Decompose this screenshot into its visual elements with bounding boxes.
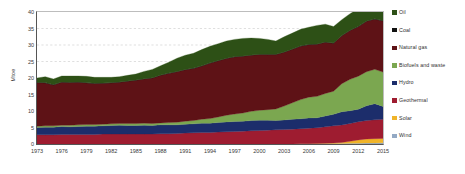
x-tick-label: 2012 — [352, 148, 364, 154]
y-tick-label: 35 — [18, 26, 34, 32]
y-tick-label: 15 — [18, 92, 34, 98]
y-tick-label: 5 — [18, 125, 34, 131]
legend-swatch-icon — [392, 98, 397, 103]
plot-area — [36, 11, 384, 145]
legend-item-hydro[interactable]: Hydro — [392, 80, 414, 85]
legend-label: Biofuels and waste — [399, 63, 445, 68]
legend-item-biofuels-and-waste[interactable]: Biofuels and waste — [392, 63, 445, 68]
x-tick-label: 1988 — [154, 148, 166, 154]
legend-swatch-icon — [392, 63, 397, 68]
x-axis-tick-labels: 1973197619791982198519881991199419972000… — [36, 148, 384, 162]
legend-swatch-icon — [392, 10, 397, 15]
y-tick-label: 20 — [18, 75, 34, 81]
legend-swatch-icon — [392, 134, 397, 139]
x-tick-label: 2000 — [253, 148, 265, 154]
legend-item-wind[interactable]: Wind — [392, 133, 411, 138]
x-tick-label: 2015 — [377, 148, 389, 154]
legend-label: Wind — [399, 133, 411, 138]
legend-label: Solar — [399, 116, 412, 121]
y-tick-label: 30 — [18, 42, 34, 48]
y-tick-label: 10 — [18, 108, 34, 114]
y-axis-title: Mtoe — [10, 55, 16, 95]
y-tick-label: 40 — [18, 9, 34, 15]
x-tick-label: 1973 — [31, 148, 43, 154]
x-tick-label: 1979 — [80, 148, 92, 154]
legend-label: Oil — [399, 10, 406, 15]
y-tick-label: 25 — [18, 59, 34, 65]
legend-label: Geothermal — [399, 98, 428, 103]
legend-label: Hydro — [399, 80, 414, 85]
x-tick-label: 2003 — [278, 148, 290, 154]
legend-item-natural-gas[interactable]: Natural gas — [392, 45, 427, 50]
x-tick-label: 2009 — [327, 148, 339, 154]
x-tick-label: 1994 — [204, 148, 216, 154]
legend-swatch-icon — [392, 46, 397, 51]
chart-legend: OilCoalNatural gasBiofuels and wasteHydr… — [392, 10, 464, 150]
x-tick-label: 2006 — [303, 148, 315, 154]
legend-swatch-icon — [392, 116, 397, 121]
y-tick-label: 0 — [18, 141, 34, 147]
legend-item-oil[interactable]: Oil — [392, 10, 406, 15]
legend-swatch-icon — [392, 81, 397, 86]
x-tick-label: 1985 — [130, 148, 142, 154]
x-tick-label: 1982 — [105, 148, 117, 154]
legend-item-solar[interactable]: Solar — [392, 116, 412, 121]
legend-swatch-icon — [392, 28, 397, 33]
x-tick-label: 1997 — [229, 148, 241, 154]
x-tick-label: 1976 — [56, 148, 68, 154]
legend-label: Coal — [399, 28, 410, 33]
x-tick-label: 1991 — [179, 148, 191, 154]
legend-label: Natural gas — [399, 45, 427, 50]
legend-item-geothermal[interactable]: Geothermal — [392, 98, 428, 103]
legend-item-coal[interactable]: Coal — [392, 28, 410, 33]
stacked-area-chart: Mtoe 0510152025303540 197319761979198219… — [0, 0, 465, 174]
plot-svg — [37, 12, 383, 144]
